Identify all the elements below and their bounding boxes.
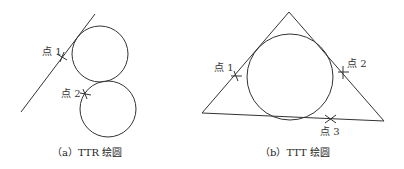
- point-2-label: 点 2: [347, 58, 367, 69]
- circle-upper: [72, 26, 128, 82]
- caption-b: （b）TTT 绘圆: [260, 146, 330, 158]
- diagram-canvas: 点 1 点 2 （a）TTR 绘圆 点 1 点 2 点 3 （b）TTT 绘圆: [0, 0, 404, 169]
- point-3-label: 点 3: [320, 126, 340, 137]
- point-2-marker-icon: [80, 89, 91, 99]
- figure-a-ttr: 点 1 点 2 （a）TTR 绘圆: [21, 14, 136, 158]
- circle-lower: [80, 81, 136, 137]
- point-1-label: 点 1: [42, 46, 62, 57]
- point-1-label: 点 1: [214, 62, 234, 73]
- tangent-line: [21, 14, 95, 112]
- figure-b-ttt: 点 1 点 2 点 3 （b）TTT 绘圆: [202, 12, 384, 158]
- incircle: [247, 34, 333, 120]
- caption-a: （a）TTR 绘圆: [52, 146, 122, 158]
- point-2-label: 点 2: [61, 88, 81, 99]
